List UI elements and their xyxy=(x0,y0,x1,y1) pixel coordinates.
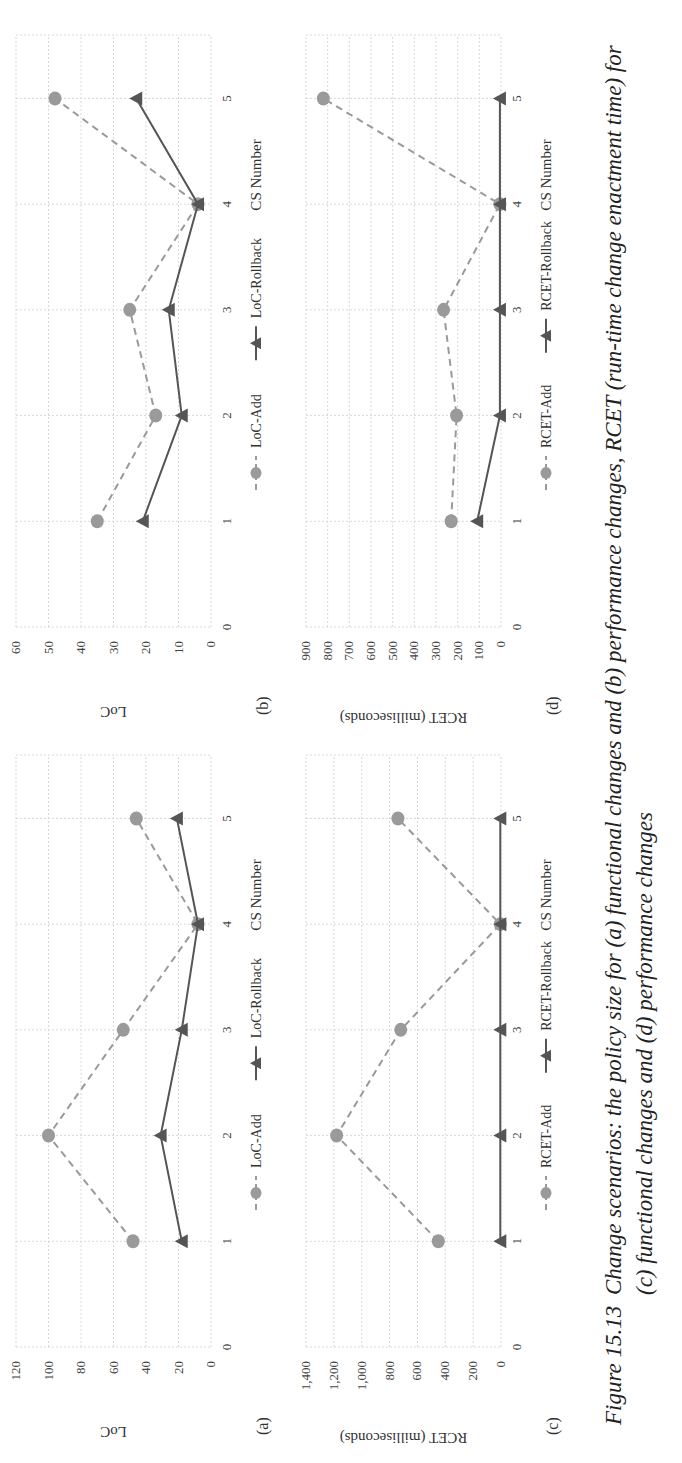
x-tick-label: 0 xyxy=(219,624,234,631)
figure-caption-text: Change scenarios: the policy size for (a… xyxy=(598,25,660,1295)
triangle-marker-icon xyxy=(136,514,149,528)
y-tick-label: 100 xyxy=(41,1361,56,1381)
x-tick-label: 5 xyxy=(219,95,234,102)
circle-marker-icon xyxy=(394,1023,407,1037)
legend-label: LoC-Rollback xyxy=(249,238,264,318)
figure-15-13: 020406080100120012345LoC(a)LoC-AddLoC-Ro… xyxy=(0,0,682,1463)
y-tick-label: 400 xyxy=(406,641,421,661)
y-axis-title: RCET (milliseconds) xyxy=(340,1429,468,1446)
circle-marker-icon xyxy=(117,1023,130,1037)
x-tick-label: 2 xyxy=(219,1132,234,1139)
x-tick-label: 0 xyxy=(509,624,524,631)
y-tick-label: 60 xyxy=(8,641,23,654)
figure-number: Figure 15.13 xyxy=(598,1295,660,1425)
circle-marker-icon xyxy=(127,1234,140,1248)
y-tick-label: 30 xyxy=(106,641,121,654)
x-tick-label: 2 xyxy=(509,1132,524,1139)
x-tick-label: 5 xyxy=(509,815,524,822)
triangle-marker-icon xyxy=(154,1129,167,1143)
triangle-marker-icon xyxy=(470,514,483,528)
y-tick-label: 600 xyxy=(409,1361,424,1381)
x-tick-label: 4 xyxy=(219,920,234,927)
circle-marker-icon xyxy=(130,811,143,825)
triangle-marker-icon xyxy=(170,811,183,825)
legend-label: RCET-Add xyxy=(539,385,554,448)
circle-marker-icon xyxy=(49,91,62,105)
legend-label: RCET-Add xyxy=(539,1105,554,1168)
circle-marker-icon xyxy=(42,1129,55,1143)
legend-circle-icon xyxy=(541,1187,552,1199)
x-axis-title: CS Number xyxy=(248,139,264,210)
x-tick-label: 0 xyxy=(219,1344,234,1351)
y-tick-label: 0 xyxy=(203,641,218,648)
y-tick-label: 800 xyxy=(382,1361,397,1381)
y-tick-label: 120 xyxy=(8,1361,23,1381)
x-axis-title: CS Number xyxy=(538,139,554,210)
y-tick-label: 1,200 xyxy=(326,1361,341,1390)
y-tick-label: 20 xyxy=(138,641,153,654)
line-chart-svg: 020406080100120012345LoC(a)LoC-AddLoC-Ro… xyxy=(6,735,291,1455)
panel-label: (c) xyxy=(544,1417,562,1435)
panel-label: (d) xyxy=(544,696,562,715)
circle-marker-icon xyxy=(432,1234,445,1248)
circle-marker-icon xyxy=(123,303,136,317)
circle-marker-icon xyxy=(317,91,330,105)
y-tick-label: 200 xyxy=(450,641,465,661)
chart-panel-d: 0100200300400500600700800900012345RCET (… xyxy=(296,15,581,735)
chart-panel-c: 02004006008001,0001,2001,400012345RCET (… xyxy=(296,735,581,1455)
x-tick-label: 5 xyxy=(219,815,234,822)
x-tick-label: 3 xyxy=(509,307,524,314)
x-axis-title: CS Number xyxy=(538,859,554,930)
panel-label: (a) xyxy=(254,1417,272,1435)
x-tick-label: 1 xyxy=(219,1238,234,1245)
y-tick-label: 100 xyxy=(471,641,486,661)
chart-panel-a: 020406080100120012345LoC(a)LoC-AddLoC-Ro… xyxy=(6,735,291,1455)
y-axis-title: LoC xyxy=(100,1424,127,1440)
x-tick-label: 5 xyxy=(509,95,524,102)
x-tick-label: 3 xyxy=(509,1027,524,1034)
legend-label: LoC-Rollback xyxy=(249,958,264,1038)
y-tick-label: 50 xyxy=(41,641,56,654)
x-tick-label: 2 xyxy=(509,412,524,419)
x-tick-label: 1 xyxy=(219,518,234,525)
x-tick-label: 4 xyxy=(219,200,234,207)
x-tick-label: 3 xyxy=(219,1027,234,1034)
legend-circle-icon xyxy=(541,467,552,479)
y-tick-label: 60 xyxy=(106,1361,121,1374)
y-tick-label: 10 xyxy=(171,641,186,654)
y-tick-label: 300 xyxy=(428,641,443,661)
circle-marker-icon xyxy=(445,514,458,528)
x-tick-label: 0 xyxy=(509,1344,524,1351)
y-tick-label: 0 xyxy=(493,1361,508,1368)
y-tick-label: 0 xyxy=(493,641,508,648)
panel-label: (b) xyxy=(254,696,272,715)
legend-label: RCET-Rollback xyxy=(539,221,554,311)
circle-marker-icon xyxy=(450,409,463,423)
y-tick-label: 800 xyxy=(320,641,335,661)
y-axis-title: RCET (milliseconds) xyxy=(340,709,468,726)
y-tick-label: 200 xyxy=(465,1361,480,1381)
legend-circle-icon xyxy=(251,467,262,479)
legend-label: LoC-Add xyxy=(249,394,264,448)
x-tick-label: 4 xyxy=(509,200,524,207)
y-tick-label: 40 xyxy=(138,1361,153,1374)
triangle-marker-icon xyxy=(162,303,175,317)
x-axis-title: CS Number xyxy=(248,859,264,930)
y-tick-label: 80 xyxy=(73,1361,88,1374)
y-tick-label: 900 xyxy=(298,641,313,661)
x-tick-label: 1 xyxy=(509,518,524,525)
circle-marker-icon xyxy=(437,303,450,317)
line-chart-svg: 0102030405060012345LoC(b)LoC-AddLoC-Roll… xyxy=(6,15,291,735)
circle-marker-icon xyxy=(391,811,404,825)
legend-label: RCET-Rollback xyxy=(539,941,554,1031)
y-tick-label: 700 xyxy=(341,641,356,661)
line-chart-svg: 02004006008001,0001,2001,400012345RCET (… xyxy=(296,735,581,1455)
x-tick-label: 3 xyxy=(219,307,234,314)
y-tick-label: 600 xyxy=(363,641,378,661)
x-tick-label: 1 xyxy=(509,1238,524,1245)
chart-panel-b: 0102030405060012345LoC(b)LoC-AddLoC-Roll… xyxy=(6,15,291,735)
y-tick-label: 20 xyxy=(171,1361,186,1374)
y-tick-label: 400 xyxy=(437,1361,452,1381)
legend-circle-icon xyxy=(251,1187,262,1199)
y-tick-label: 1,000 xyxy=(354,1361,369,1390)
